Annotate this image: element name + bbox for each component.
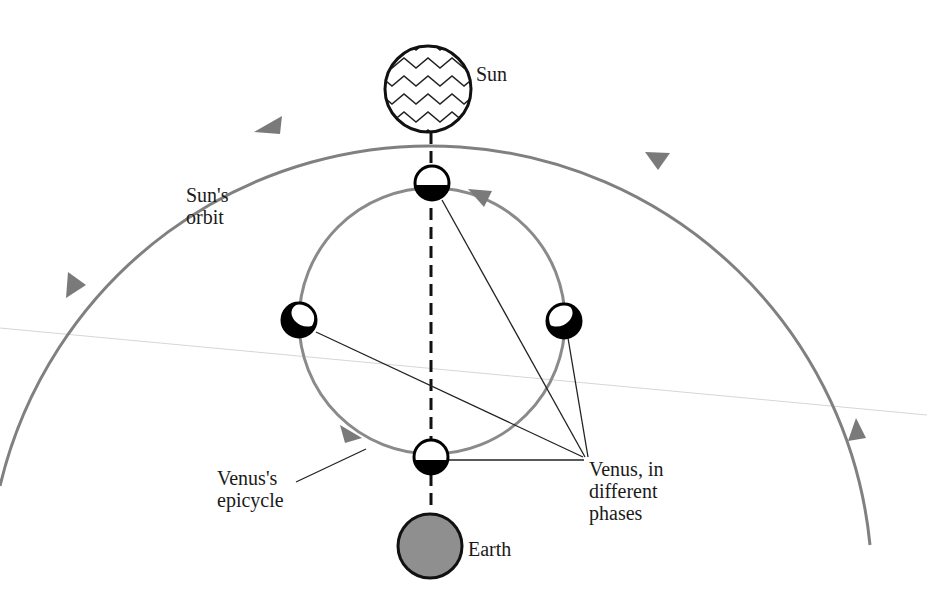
orbit-arrow-icon [254, 116, 282, 134]
venus-phases-label: Venus, in different phases [589, 458, 663, 524]
epicycle-pointer-line [296, 449, 366, 482]
orbit-arrow-icon [848, 418, 866, 441]
ptolemaic-venus-diagram [0, 0, 927, 607]
sun-label: Sun [476, 63, 507, 85]
sun-icon [380, 40, 476, 140]
venus-right-icon [542, 299, 581, 338]
orbit-arrow-icon [66, 272, 86, 298]
venus-pointer-lines [316, 200, 588, 460]
venus-left-icon [282, 299, 322, 337]
venus-bottom-icon [412, 440, 452, 480]
orbit-arrow-icon [645, 152, 670, 170]
venus-top-icon [413, 166, 453, 205]
epicycle-arrow-icon [468, 189, 492, 207]
earth-label: Earth [468, 538, 511, 560]
venus-epicycle-label: Venus's epicycle [217, 467, 284, 511]
sun-orbit [0, 146, 870, 545]
faint-line [0, 328, 927, 415]
earth-icon [398, 514, 462, 578]
sun-orbit-label: Sun's orbit [186, 184, 229, 228]
